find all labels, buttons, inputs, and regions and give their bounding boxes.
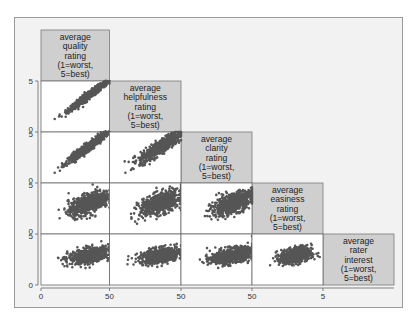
scatter-panel-rater_interest-vs-helpfulness (110, 234, 183, 285)
y-tick-label: 5 (29, 130, 34, 139)
variable-label-line: 5=best) (344, 273, 373, 283)
scatter-panel-easiness-vs-helpfulness (110, 183, 183, 234)
variable-label-rater_interest: averageraterinterest(1=worst,5=best) (323, 234, 394, 285)
scatter-panel-rater_interest-vs-clarity (181, 234, 253, 285)
y-tick-label: 5 (29, 77, 34, 86)
x-tick-label: 50 (105, 292, 114, 301)
scatter-panel-easiness-vs-clarity (181, 183, 253, 234)
scatter-panel-clarity-vs-quality (41, 131, 111, 183)
y-tick-label: 0 (29, 281, 34, 290)
scatter-panel-rater_interest-vs-quality (41, 234, 111, 285)
chart-frame: averagequalityrating(1=worst,5=best)aver… (14, 17, 403, 308)
x-tick-label: 0 (39, 292, 44, 301)
y-tick-label: 5 (29, 181, 34, 190)
x-tick-label: 5 (321, 292, 326, 301)
variable-label-easiness: averageeasinessrating(1=worst,5=best) (252, 183, 323, 234)
x-tick-label: 50 (248, 292, 257, 301)
x-tick-label: 50 (177, 292, 186, 301)
scatter-panel-rater_interest-vs-easiness (252, 234, 323, 285)
scatterplot-matrix: averagequalityrating(1=worst,5=best)aver… (15, 18, 404, 309)
variable-label-clarity: averageclarityrating(1=worst,5=best) (181, 132, 252, 183)
variable-label-line: 5=best) (273, 222, 302, 232)
scatter-panel-clarity-vs-helpfulness (110, 131, 183, 183)
y-tick-label: 5 (29, 232, 34, 241)
variable-label-helpfulness: averagehelpfulnessrating(1=worst,5=best) (110, 81, 182, 132)
variable-label-line: 5=best) (131, 120, 160, 130)
variable-label-quality: averagequalityrating(1=worst,5=best) (41, 30, 110, 81)
variable-label-line: 5=best) (61, 69, 90, 79)
scatter-panel-easiness-vs-quality (41, 183, 111, 234)
scatter-panel-helpfulness-vs-quality (41, 80, 111, 132)
variable-label-line: 5=best) (202, 171, 231, 181)
